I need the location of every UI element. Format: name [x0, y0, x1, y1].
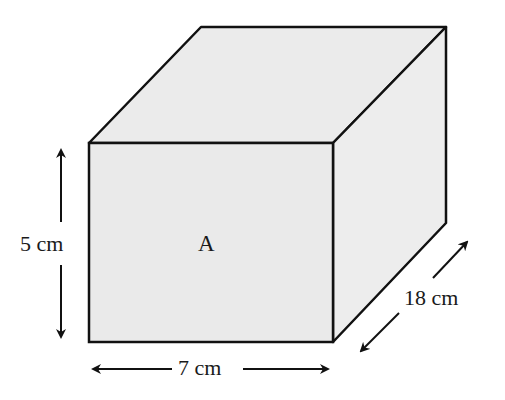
- prism-diagram: A 5 cm 7 cm 18 cm: [0, 0, 505, 400]
- face-label: A: [198, 232, 215, 255]
- width-label: 7 cm: [178, 357, 221, 379]
- depth-label: 18 cm: [404, 287, 458, 309]
- height-label: 5 cm: [20, 233, 63, 255]
- prism-drawing: [0, 0, 505, 400]
